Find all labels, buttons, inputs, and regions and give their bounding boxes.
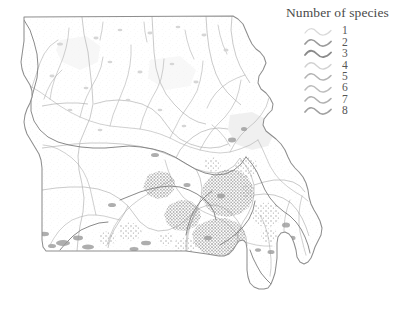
wavy-stream-line-icon (304, 71, 332, 82)
legend-label: 3 (342, 48, 348, 60)
wavy-stream-line-icon (304, 60, 332, 71)
wavy-stream-line-icon (304, 105, 332, 116)
wavy-stream-line-icon (304, 94, 332, 105)
wavy-stream-line-icon (304, 48, 332, 59)
wavy-stream-line-icon (304, 83, 332, 94)
legend-title: Number of species (286, 6, 403, 20)
legend-row[interactable]: 7 (304, 94, 403, 105)
legend-row[interactable]: 3 (304, 48, 403, 59)
legend-row[interactable]: 2 (304, 37, 403, 48)
legend-row[interactable]: 1 (304, 26, 403, 37)
wavy-stream-line-icon (304, 37, 332, 48)
legend-row[interactable]: 6 (304, 82, 403, 93)
legend-label: 8 (342, 105, 348, 117)
wavy-stream-line-icon (304, 26, 332, 37)
legend-entries: 1 2 3 4 (304, 26, 403, 117)
legend: Number of species 1 2 3 (286, 6, 403, 117)
legend-row[interactable]: 4 (304, 60, 403, 71)
legend-row[interactable]: 8 (304, 105, 403, 116)
legend-row[interactable]: 5 (304, 71, 403, 82)
figure-canvas: Number of species 1 2 3 (0, 0, 403, 314)
